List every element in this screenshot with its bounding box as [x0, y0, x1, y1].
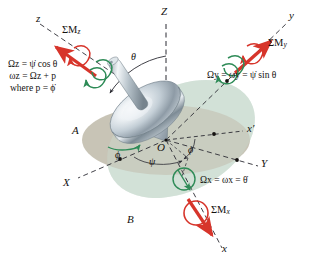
gyroscope-figure: z Z y Y x′ X x O A B θ ϕ ϕ ψ ΣMz ΣMy ΣMx…: [0, 0, 330, 266]
axis-label-Z: Z: [161, 6, 167, 17]
angle-label-psi: ψ: [149, 157, 155, 167]
equation-line-y: Ωy = ωy = ψ̇ sin θ: [207, 69, 276, 81]
sum-m-y-label: ΣMy: [268, 38, 287, 49]
sum-m-z-arrow: [56, 46, 96, 76]
sum-m-z-label: ΣMz: [62, 25, 80, 36]
axis-label-x: x: [222, 243, 227, 254]
axis-label-x-prime: x′: [247, 123, 254, 134]
angle-label-phi-left: ϕ: [115, 150, 120, 160]
axis-label-y: y: [289, 10, 294, 21]
origin-label: O: [157, 142, 165, 153]
sum-m-y-sub: y: [283, 40, 286, 49]
sum-m-z-sub: z: [77, 27, 80, 36]
angle-label-phi-right: ϕ: [188, 145, 193, 155]
sum-m-y-text: ΣM: [268, 37, 283, 48]
plane-label-A: A: [72, 125, 79, 136]
equation-block-z: Ωz = ψ̇ cos θ ωz = Ωz + p where p = ϕ̇: [8, 58, 57, 94]
plane-label-B: B: [127, 214, 134, 225]
axis-label-Y: Y: [261, 158, 267, 169]
equation-z-line1: Ωz = ψ̇ cos θ: [8, 58, 57, 70]
equation-z-line3: where p = ϕ̇: [8, 82, 57, 94]
equation-z-line2: ωz = Ωz + p: [8, 70, 57, 82]
equation-line-x: Ωx = ωx = θ̇: [200, 174, 248, 186]
sum-m-x-arrow: [184, 199, 212, 235]
sum-m-x-label: ΣMx: [211, 205, 230, 216]
sum-m-x-text: ΣM: [211, 204, 226, 215]
angle-label-theta: θ: [131, 52, 136, 62]
sum-m-x-sub: x: [226, 207, 229, 216]
axis-label-X: X: [63, 177, 70, 188]
sum-m-z-text: ΣM: [62, 24, 77, 35]
axis-label-z: z: [36, 13, 40, 24]
